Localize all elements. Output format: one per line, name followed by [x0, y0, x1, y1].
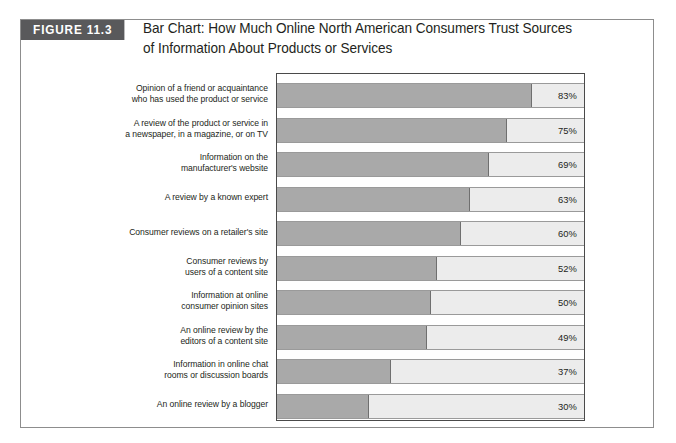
bar-value-label: 49% — [558, 325, 577, 350]
category-label-line-2: editors of a content site — [22, 336, 268, 347]
bar-row: 50% — [277, 290, 584, 315]
bar-fill — [277, 222, 461, 245]
figure-title-line-2: of Information About Products or Service… — [143, 39, 618, 59]
category-label-line-1: An online review by the — [22, 325, 268, 336]
category-label: A review by a known expert — [22, 192, 268, 203]
bar-fill — [277, 257, 437, 280]
category-label-line-2: who has used the product or service — [22, 94, 268, 105]
category-axis-labels: Opinion of a friend or acquaintancewho h… — [21, 73, 274, 425]
bar-fill — [277, 360, 391, 383]
category-label-line-1: Consumer reviews on a retailer's site — [22, 227, 268, 238]
bar-fill — [277, 291, 431, 314]
page-bleed-text — [14, 0, 234, 9]
bar-track — [277, 256, 584, 281]
bar-row: 63% — [277, 187, 584, 212]
bar-fill — [277, 326, 427, 349]
bar-value-label: 83% — [558, 83, 577, 108]
bar-track — [277, 221, 584, 246]
category-label-line-2: consumer opinion sites — [22, 301, 268, 312]
category-label: Consumer reviews byusers of a content si… — [22, 256, 268, 278]
bar-row: 60% — [277, 221, 584, 246]
bar-track — [277, 325, 584, 350]
bar-value-label: 52% — [558, 256, 577, 281]
figure-title: Bar Chart: How Much Online North America… — [143, 19, 618, 58]
bar-fill — [277, 153, 489, 176]
category-label: Information at onlineconsumer opinion si… — [22, 290, 268, 312]
bar-row: 30% — [277, 394, 584, 419]
figure-box: FIGURE 11.3 Bar Chart: How Much Online N… — [20, 19, 654, 428]
bar-value-label: 60% — [558, 221, 577, 246]
category-label-line-1: An online review by a blogger — [22, 399, 268, 410]
category-label-line-1: Information at online — [22, 290, 268, 301]
figure-header: FIGURE 11.3 Bar Chart: How Much Online N… — [21, 20, 653, 66]
category-label: An online review by a blogger — [22, 399, 268, 410]
bar-track — [277, 394, 584, 419]
bar-value-label: 75% — [558, 118, 577, 143]
figure-title-line-1: Bar Chart: How Much Online North America… — [143, 19, 618, 39]
bar-track — [277, 118, 584, 143]
category-label-line-1: Information in online chat — [22, 359, 268, 370]
category-label-line-1: A review of the product or service in — [22, 118, 268, 129]
bar-value-label: 63% — [558, 187, 577, 212]
category-label-line-2: manufacturer's website — [22, 163, 268, 174]
bar-track — [277, 83, 584, 108]
bar-track — [277, 152, 584, 177]
category-label-line-2: users of a content site — [22, 267, 268, 278]
chart-region: Opinion of a friend or acquaintancewho h… — [21, 73, 655, 425]
category-label-line-2: a newspaper, in a magazine, or on TV — [22, 129, 268, 140]
category-label: A review of the product or service ina n… — [22, 118, 268, 140]
bar-fill — [277, 395, 369, 418]
category-label: Information in online chatrooms or discu… — [22, 359, 268, 381]
bar-row: 37% — [277, 359, 584, 384]
category-label: Opinion of a friend or acquaintancewho h… — [22, 83, 268, 105]
plot-area: 83%75%69%63%60%52%50%49%37%30% — [276, 73, 585, 421]
bar-track — [277, 359, 584, 384]
bar-fill — [277, 84, 532, 107]
bar-row: 52% — [277, 256, 584, 281]
bar-track — [277, 290, 584, 315]
bar-fill — [277, 119, 507, 142]
bar-row: 49% — [277, 325, 584, 350]
category-label: Information on themanufacturer's website — [22, 152, 268, 174]
bar-row: 83% — [277, 83, 584, 108]
category-label-line-1: A review by a known expert — [22, 192, 268, 203]
category-label-line-1: Consumer reviews by — [22, 256, 268, 267]
bar-row: 75% — [277, 118, 584, 143]
bar-track — [277, 187, 584, 212]
category-label-line-1: Information on the — [22, 152, 268, 163]
bar-row: 69% — [277, 152, 584, 177]
category-label-line-1: Opinion of a friend or acquaintance — [22, 83, 268, 94]
bar-value-label: 50% — [558, 290, 577, 315]
bar-value-label: 30% — [558, 394, 577, 419]
category-label: An online review by theeditors of a cont… — [22, 325, 268, 347]
category-label-line-2: rooms or discussion boards — [22, 370, 268, 381]
bar-fill — [277, 188, 470, 211]
figure-number-badge: FIGURE 11.3 — [21, 20, 124, 40]
bar-value-label: 37% — [558, 359, 577, 384]
category-label: Consumer reviews on a retailer's site — [22, 227, 268, 238]
bar-value-label: 69% — [558, 152, 577, 177]
